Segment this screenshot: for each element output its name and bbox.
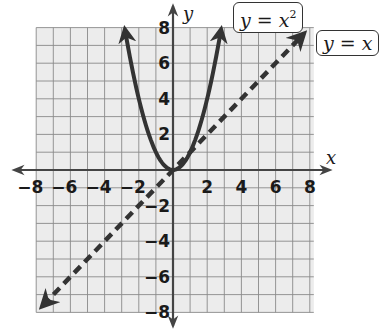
y-tick-label: −2 bbox=[144, 196, 170, 216]
parabola-equation-label: y = x2 bbox=[233, 2, 303, 33]
x-tick-label: 2 bbox=[201, 177, 213, 197]
x-tick-label: 8 bbox=[304, 177, 316, 197]
y-tick-label: 2 bbox=[158, 124, 170, 144]
line-equation-text: y = x bbox=[323, 32, 372, 54]
x-tick-label: −8 bbox=[17, 177, 43, 197]
x-tick-label: −4 bbox=[86, 177, 112, 197]
y-tick-label: −6 bbox=[144, 267, 170, 287]
parabola-equation-exponent: 2 bbox=[289, 8, 296, 21]
line-equation-label: y = x bbox=[316, 30, 379, 56]
y-tick-label: 4 bbox=[158, 89, 170, 109]
y-tick-label: −4 bbox=[144, 231, 170, 251]
x-tick-label: −6 bbox=[51, 177, 77, 197]
x-axis-label: x bbox=[326, 147, 336, 168]
parabola-equation-base: y = x bbox=[240, 9, 289, 31]
x-tick-label: 4 bbox=[235, 177, 247, 197]
y-tick-label: 8 bbox=[158, 18, 170, 38]
y-tick-label: 6 bbox=[158, 53, 170, 73]
y-tick-label: −8 bbox=[144, 302, 170, 322]
x-tick-label: −2 bbox=[120, 177, 146, 197]
x-tick-label: 6 bbox=[270, 177, 282, 197]
y-axis-label: y bbox=[182, 3, 194, 24]
